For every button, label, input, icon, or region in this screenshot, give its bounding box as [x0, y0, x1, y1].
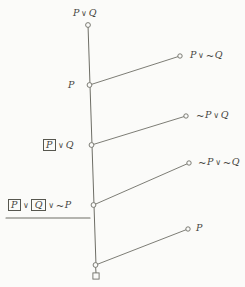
disjunction-operator: ∨ [57, 141, 66, 150]
literal-q: Q [66, 139, 74, 150]
literal-q: Q [215, 49, 223, 60]
nodes-group [86, 23, 192, 280]
branch-endpoint-b4 [186, 227, 190, 231]
label-top-formula: P∨Q [73, 8, 97, 18]
branch-line-b1 [90, 56, 181, 85]
negation-operator: ~ [206, 50, 215, 61]
disjunction-operator: ∨ [212, 111, 221, 120]
label-node-boxed-p-or-q: P∨Q [42, 139, 74, 151]
literal-p: P [207, 156, 214, 167]
edges-group [88, 25, 189, 273]
derivation-diagram: P∨QPP∨QP∨Q∨~PP∨~Q~P∨Q~P∨~QP [0, 0, 245, 287]
literal-q: Q [232, 156, 240, 167]
spine-node-n1 [87, 83, 92, 88]
spine-node-n0 [86, 23, 91, 28]
disjunction-operator: ∨ [80, 9, 89, 18]
terminal-node-t0 [93, 273, 99, 279]
negation-operator: ~ [223, 157, 232, 168]
boxed-literal-p: P [8, 199, 22, 211]
label-branch-p-or-neg-q: P∨~Q [190, 50, 223, 60]
label-branch-p: P [196, 223, 203, 233]
negation-operator: ~ [196, 110, 205, 121]
literal-p: P [196, 222, 203, 233]
branch-line-b2 [92, 116, 187, 145]
spine-node-n2 [89, 143, 94, 148]
literal-q: Q [221, 109, 229, 120]
boxed-literal-q: Q [31, 199, 46, 211]
negation-operator: ~ [198, 157, 207, 168]
literal-q: Q [89, 7, 97, 18]
branch-endpoint-b3 [187, 161, 191, 165]
label-node-boxed-p-or-boxed-q-or-neg-p: P∨Q∨~P [7, 199, 71, 211]
disjunction-operator: ∨ [214, 158, 223, 167]
label-branch-neg-p-or-q: ~P∨Q [196, 110, 229, 120]
literal-p: P [205, 109, 212, 120]
disjunction-operator: ∨ [197, 51, 206, 60]
disjunction-operator: ∨ [22, 201, 31, 210]
spine-node-n3 [91, 203, 96, 208]
spine-node-n4 [93, 263, 98, 268]
label-node-p: P [68, 80, 75, 90]
literal-p: P [190, 49, 197, 60]
branch-line-b4 [96, 229, 189, 265]
diagram-canvas [0, 0, 245, 287]
boxed-literal-p: P [43, 139, 57, 151]
disjunction-operator: ∨ [47, 201, 56, 210]
branch-endpoint-b2 [184, 114, 188, 118]
literal-p: P [65, 199, 72, 210]
negation-operator: ~ [56, 200, 65, 211]
branch-line-b3 [94, 163, 190, 205]
literal-p: P [73, 7, 80, 18]
label-branch-neg-p-or-neg-q: ~P∨~Q [198, 157, 240, 167]
literal-p: P [68, 79, 75, 90]
branch-endpoint-b1 [178, 54, 182, 58]
